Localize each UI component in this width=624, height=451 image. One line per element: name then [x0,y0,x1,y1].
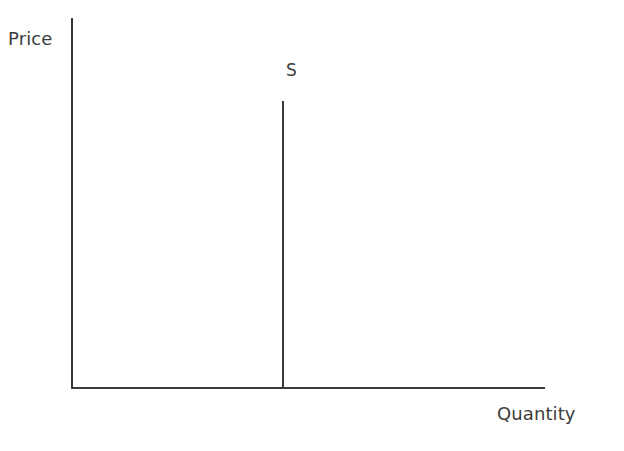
y-axis-label: Price [8,30,52,48]
supply-curve-figure: Price Quantity S [0,0,624,451]
supply-curve-line [282,101,284,388]
supply-curve-label: S [286,62,297,79]
y-axis-line [71,18,73,389]
x-axis-label: Quantity [497,405,576,423]
x-axis-line [71,387,545,389]
